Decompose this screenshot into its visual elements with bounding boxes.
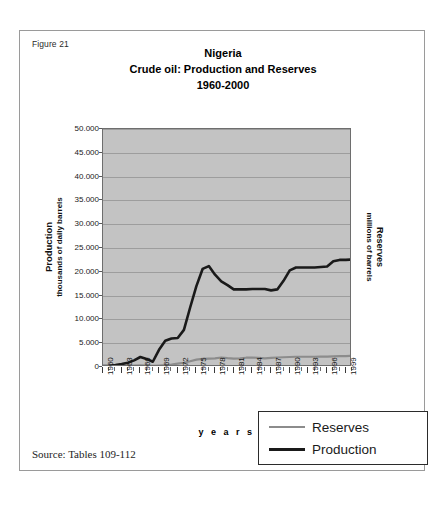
y-axis-tick-label: 15.000 bbox=[47, 290, 99, 299]
legend-swatch-production-icon bbox=[269, 448, 305, 451]
x-axis-tick-mark bbox=[195, 367, 196, 373]
x-axis-tick-label: 1978 bbox=[218, 357, 227, 375]
x-axis-tick-mark bbox=[177, 367, 178, 373]
y-axis-tick-label: 50.000 bbox=[47, 124, 99, 133]
x-axis-tick-label: 1963 bbox=[125, 357, 134, 375]
y-axis-tick-label: 20.000 bbox=[47, 266, 99, 275]
y-axis-tick-label: 10.000 bbox=[47, 314, 99, 323]
x-axis-tick-mark bbox=[121, 367, 122, 373]
x-axis-tick-label: 1984 bbox=[255, 357, 264, 375]
legend-swatch-reserves-icon bbox=[269, 426, 305, 428]
y-axis-tick-label: 5.000 bbox=[47, 338, 99, 347]
x-axis-tick-mark bbox=[320, 367, 321, 371]
x-axis-tick-label: 1981 bbox=[237, 357, 246, 375]
x-axis-tick-mark bbox=[102, 367, 103, 373]
y2-axis-title-main: Reserves bbox=[374, 172, 385, 322]
chart-title-line-3: 1960-2000 bbox=[20, 77, 426, 93]
x-axis-tick-mark bbox=[326, 367, 327, 373]
x-axis-tick-label: 1993 bbox=[311, 357, 320, 375]
chart-title-line-2: Crude oil: Production and Reserves bbox=[20, 61, 426, 77]
x-axis-tick-mark bbox=[233, 367, 234, 373]
x-axis-tick-label: 1987 bbox=[274, 357, 283, 375]
x-axis-tick-mark bbox=[251, 367, 252, 373]
y-axis-tick-label: 30.000 bbox=[47, 219, 99, 228]
legend-label-production: Production bbox=[312, 442, 377, 457]
y-axis-tick-label: 45.000 bbox=[47, 147, 99, 156]
x-axis-ticks: 1960196319661969197219751978198119841987… bbox=[102, 367, 351, 373]
x-axis-tick-label: 1990 bbox=[293, 357, 302, 375]
plot-wrapper: Production thousands of daily barrels Re… bbox=[102, 128, 351, 366]
chart-title-line-1: Nigeria bbox=[20, 45, 426, 61]
x-axis-tick-mark bbox=[270, 367, 271, 373]
source-note: Source: Tables 109-112 bbox=[32, 448, 136, 460]
x-axis-tick-label: 1966 bbox=[143, 357, 152, 375]
x-axis-tick-mark bbox=[139, 367, 140, 373]
plot-area bbox=[102, 128, 351, 366]
legend-label-reserves: Reserves bbox=[312, 420, 369, 435]
chart-title: Nigeria Crude oil: Production and Reserv… bbox=[20, 45, 426, 93]
legend-item-production: Production bbox=[269, 438, 377, 460]
y2-axis-title-sub: millions of barrels bbox=[364, 172, 375, 322]
x-axis-tick-mark bbox=[345, 367, 346, 373]
y-axis-tick-label: 0 bbox=[47, 362, 99, 371]
y-axis-tick-label: 40.000 bbox=[47, 171, 99, 180]
x-axis-tick-label: 1960 bbox=[106, 357, 115, 375]
x-axis-tick-mark bbox=[289, 367, 290, 373]
series-lines bbox=[103, 129, 351, 366]
x-axis-tick-mark bbox=[307, 367, 308, 373]
series-line-production bbox=[103, 259, 351, 366]
x-axis-tick-mark bbox=[158, 367, 159, 373]
legend-item-reserves: Reserves bbox=[269, 416, 369, 438]
y-axis-tick-label: 35.000 bbox=[47, 195, 99, 204]
y-axis-tick-label: 25.000 bbox=[47, 243, 99, 252]
y2-axis-title: Reserves millions of barrels bbox=[364, 172, 385, 322]
x-axis-tick-mark bbox=[214, 367, 215, 373]
x-axis-tick-label: 1996 bbox=[330, 357, 339, 375]
chart-legend: Reserves Production bbox=[258, 411, 428, 465]
x-axis-tick-label: 1975 bbox=[199, 357, 208, 375]
x-axis-tick-label: 1972 bbox=[181, 357, 190, 375]
figure-frame: Figure 21 Nigeria Crude oil: Production … bbox=[19, 30, 425, 471]
x-axis-tick-label: 1999 bbox=[349, 357, 358, 375]
x-axis-tick-label: 1969 bbox=[162, 357, 171, 375]
